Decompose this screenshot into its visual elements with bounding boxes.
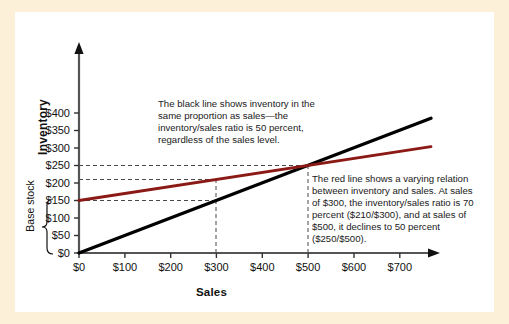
annotation-line: The black line shows inventory in the <box>158 98 348 110</box>
x-axis-title: Sales <box>196 286 227 298</box>
annotation-line: inventory/sales ratio is 50 percent, <box>158 122 348 134</box>
x-tick-label-0: $0 <box>56 262 102 273</box>
annotation-line: same proportion as sales—the <box>158 110 348 122</box>
figure-container: $0 $50 $100 $150 $200 $250 $300 $350 $40… <box>0 0 509 324</box>
y-axis-title: Inventory <box>36 82 50 172</box>
x-axis <box>79 248 440 257</box>
x-tick-label-400: $400 <box>239 262 285 273</box>
y-tick-label-0: $0 <box>26 248 70 259</box>
x-tick-label-100: $100 <box>102 262 148 273</box>
x-tick-label-600: $600 <box>331 262 377 273</box>
annotation-line: $500, it declines to 50 percent <box>312 221 492 233</box>
annotation-line: percent ($210/$300), and at sales of <box>312 209 492 221</box>
base-stock-bracket <box>42 199 53 254</box>
annotation-line: between inventory and sales. At sales <box>312 185 492 197</box>
x-tick-label-200: $200 <box>148 262 194 273</box>
annotation-line: ($250/$500). <box>312 233 492 245</box>
base-stock-axis-label: Base stock <box>24 171 36 241</box>
annotation-line: regardless of the sales level. <box>158 134 348 146</box>
black-line-annotation: The black line shows inventory in the sa… <box>158 98 348 146</box>
red-line-annotation: The red line shows a varying relation be… <box>312 173 492 246</box>
x-tick-label-300: $300 <box>193 262 239 273</box>
annotation-line: of $300, the inventory/sales ratio is 70 <box>312 197 492 209</box>
x-tick-label-500: $500 <box>285 262 331 273</box>
annotation-line: The red line shows a varying relation <box>312 173 492 185</box>
chart-plot-area <box>0 0 509 324</box>
x-tick-label-700: $700 <box>377 262 423 273</box>
